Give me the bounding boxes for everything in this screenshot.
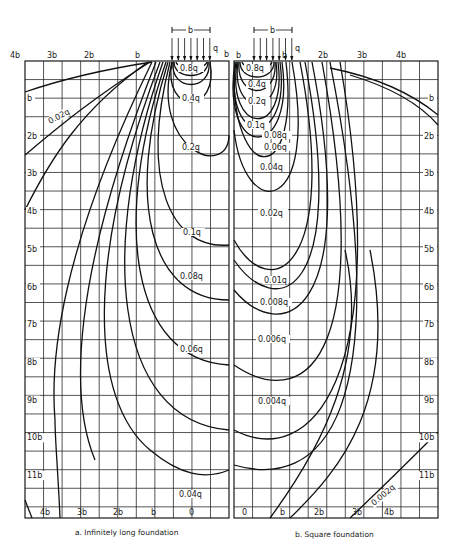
svg-text:11b: 11b [419,471,434,480]
svg-text:4b: 4b [10,51,20,60]
panel-b-load: b q [252,25,300,61]
svg-text:0.04q: 0.04q [260,163,283,172]
svg-text:3b: 3b [77,508,87,517]
svg-text:0.2q: 0.2q [248,97,266,106]
svg-text:0.06q: 0.06q [180,345,203,354]
svg-text:0.04q: 0.04q [179,490,202,499]
svg-text:0.02q: 0.02q [260,209,283,218]
svg-text:2b: 2b [27,132,37,141]
panel-a-load: b q b [170,25,229,61]
svg-text:4b: 4b [40,508,50,517]
caption-a: a. Infinitely long foundation [75,528,179,537]
svg-text:8b: 8b [27,358,37,367]
svg-text:0.008q: 0.008q [260,298,288,307]
svg-text:0.08q: 0.08q [264,131,287,140]
svg-text:3b: 3b [424,169,434,178]
svg-text:0.8q: 0.8q [246,64,264,73]
caption-b: b. Square foundation [295,530,374,539]
svg-text:0.004q: 0.004q [258,397,286,406]
svg-text:5b: 5b [424,245,434,254]
svg-text:b: b [224,50,229,59]
svg-text:0.4q: 0.4q [182,94,200,103]
svg-text:0.1q: 0.1q [247,121,265,130]
svg-text:0.4q: 0.4q [248,80,266,89]
svg-text:4b: 4b [27,207,37,216]
svg-text:b: b [151,508,156,517]
svg-text:b: b [280,508,285,517]
svg-text:9b: 9b [424,396,434,405]
svg-text:b: b [135,51,140,60]
svg-text:4b: 4b [396,51,406,60]
svg-text:10b: 10b [27,433,42,442]
svg-text:3b: 3b [352,508,362,517]
svg-text:0: 0 [242,508,247,517]
svg-text:11b: 11b [27,471,42,480]
svg-text:b: b [429,94,434,103]
svg-text:2b: 2b [113,508,123,517]
svg-text:0.02q: 0.02q [47,107,71,126]
svg-text:3b: 3b [357,51,367,60]
svg-text:3b: 3b [47,51,57,60]
svg-text:0.8q: 0.8q [180,64,198,73]
svg-text:0.006q: 0.006q [258,335,286,344]
svg-text:b: b [270,26,275,35]
svg-text:6b: 6b [424,283,434,292]
svg-text:q: q [213,44,218,53]
svg-text:b: b [282,51,287,60]
svg-text:0.08q: 0.08q [180,272,203,281]
svg-text:2b: 2b [424,132,434,141]
svg-text:q: q [295,44,300,53]
svg-text:9b: 9b [27,396,37,405]
svg-text:0.2q: 0.2q [182,143,200,152]
svg-text:0.1q: 0.1q [183,228,201,237]
svg-text:4b: 4b [424,207,434,216]
svg-text:10b: 10b [419,433,434,442]
svg-text:7b: 7b [424,320,434,329]
svg-text:2b: 2b [314,508,324,517]
svg-text:b: b [236,51,241,60]
svg-text:2b: 2b [84,51,94,60]
svg-text:0.06q: 0.06q [264,143,287,152]
svg-text:b: b [27,94,32,103]
svg-text:8b: 8b [424,358,434,367]
svg-text:5b: 5b [27,245,37,254]
svg-text:3b: 3b [27,169,37,178]
svg-text:4b: 4b [384,508,394,517]
svg-text:7b: 7b [27,320,37,329]
panel-a-isobar-labels: 0.8q 0.4q 0.2q 0.1q 0.08q 0.06q 0.04q 0.… [46,64,208,499]
stress-isobar-diagram: 0.8q 0.4q 0.2q 0.1q 0.08q 0.06q 0.04q 0.… [0,0,461,549]
svg-text:0.01q: 0.01q [264,276,287,285]
svg-text:6b: 6b [27,283,37,292]
svg-text:0: 0 [189,508,194,517]
svg-text:b: b [188,26,193,35]
svg-text:2b: 2b [318,51,328,60]
panel-a-isobars [25,62,229,518]
